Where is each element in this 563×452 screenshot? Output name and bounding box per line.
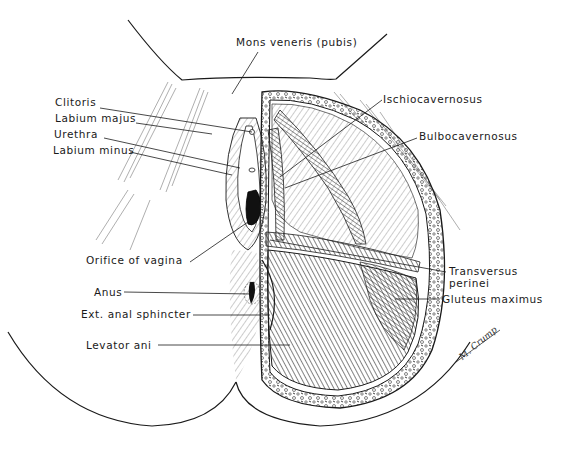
leader-line-mons-veneris [232, 52, 258, 94]
label-mons-veneris: Mons veneris (pubis) [236, 36, 357, 48]
label-labium-minus: Labium minus [53, 144, 134, 156]
label-anus: Anus [94, 286, 122, 298]
label-clitoris: Clitoris [55, 96, 96, 108]
leader-line-labium-minus [130, 152, 232, 175]
label-gluteus-maximus: Gluteus maximus [442, 293, 543, 305]
label-labium-majus: Labium majus [55, 112, 136, 124]
perineum-illustration [0, 0, 563, 452]
label-bulbocavernosus: Bulbocavernosus [419, 130, 518, 142]
label-levator-ani: Levator ani [86, 339, 152, 351]
leader-line-labium-majus [136, 123, 212, 134]
label-orifice-of-vagina: Orifice of vagina [86, 254, 183, 266]
label-urethra: Urethra [54, 128, 98, 140]
label-ischiocavernosus: Ischiocavernosus [383, 93, 483, 105]
label-ext-anal-sphincter: Ext. anal sphincter [81, 308, 191, 320]
label-transversus-perinei: Transversus perinei [449, 265, 518, 289]
